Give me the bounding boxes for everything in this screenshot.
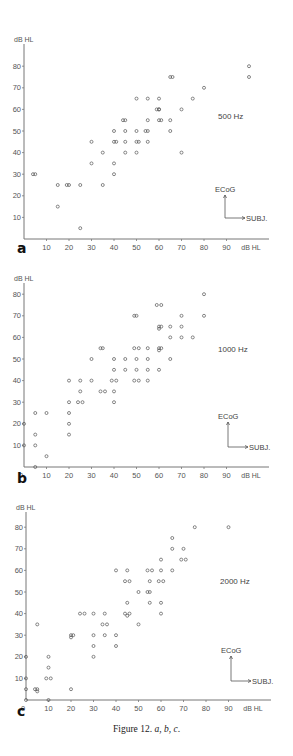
data-point	[128, 580, 131, 583]
x-tick-label: 80	[202, 704, 210, 713]
data-point	[124, 580, 127, 583]
data-point	[36, 690, 39, 693]
y-tick-label: 70	[15, 544, 23, 553]
data-point	[193, 526, 196, 529]
data-point	[45, 677, 48, 680]
y-tick-label: 30	[15, 631, 23, 640]
caption-prefix: Figure 12.	[113, 724, 152, 734]
data-point	[157, 580, 160, 583]
data-point	[148, 580, 151, 583]
data-point	[227, 526, 230, 529]
y-tick-label: 10	[15, 674, 23, 683]
data-point	[92, 645, 95, 648]
data-point	[160, 558, 163, 561]
y-tick-label: 60	[15, 566, 23, 575]
data-point	[36, 623, 39, 626]
legend-ecog-label: ECoG	[221, 646, 242, 655]
data-point	[101, 623, 104, 626]
data-point	[115, 569, 118, 572]
data-point	[92, 634, 95, 637]
x-tick-label: 40	[112, 704, 120, 713]
data-point	[180, 558, 183, 561]
data-point	[92, 655, 95, 658]
data-point	[106, 623, 109, 626]
data-point	[160, 601, 163, 604]
data-point	[137, 591, 140, 594]
data-point	[160, 569, 163, 572]
data-point	[160, 612, 163, 615]
caption-part-a: a	[154, 724, 159, 734]
data-point	[47, 655, 50, 658]
data-point	[126, 614, 129, 617]
panel-letter-c: c	[17, 703, 25, 719]
data-point	[184, 558, 187, 561]
x-tick-label: 10	[44, 704, 52, 713]
data-point	[126, 569, 129, 572]
data-point	[137, 623, 140, 626]
y-tick-label: 20	[15, 652, 23, 661]
figure-caption: Figure 12. a, b, c.	[0, 724, 293, 734]
y-tick-label: 40	[15, 609, 23, 618]
data-point	[70, 688, 73, 691]
x-tick-label: 50	[134, 704, 142, 713]
x-tick-label: 20	[67, 704, 75, 713]
data-point	[126, 601, 129, 604]
data-point	[47, 666, 50, 669]
x-tick-label: 60	[157, 704, 165, 713]
x-axis-unit: dB HL	[243, 705, 263, 712]
data-point	[162, 580, 165, 583]
data-point	[79, 612, 82, 615]
data-point	[146, 569, 149, 572]
x-tick-label: 70	[179, 704, 187, 713]
y-axis-unit: dB HL	[16, 504, 36, 511]
data-point	[83, 612, 86, 615]
x-tick-label: 30	[89, 704, 97, 713]
data-point	[103, 634, 106, 637]
caption-part-c: c	[173, 724, 177, 734]
data-point	[171, 547, 174, 550]
legend-subj-label: SUBJ.	[252, 677, 273, 686]
chart-panel-c: dB HL10203040506070800102030405060708090…	[0, 0, 293, 730]
x-tick-label: 90	[224, 704, 232, 713]
y-tick-label: 80	[15, 523, 23, 532]
data-point	[49, 677, 52, 680]
data-point	[92, 612, 95, 615]
scatter-plot-c: dB HL10203040506070800102030405060708090…	[0, 0, 293, 730]
data-point	[182, 547, 185, 550]
data-point	[148, 601, 151, 604]
y-tick-label: 50	[15, 588, 23, 597]
data-point	[171, 569, 174, 572]
data-point	[103, 612, 106, 615]
data-point	[151, 569, 154, 572]
caption-part-b: b	[164, 724, 169, 734]
data-point	[115, 645, 118, 648]
data-point	[115, 634, 118, 637]
frequency-label: 2000 Hz	[220, 577, 250, 586]
data-point	[171, 537, 174, 540]
